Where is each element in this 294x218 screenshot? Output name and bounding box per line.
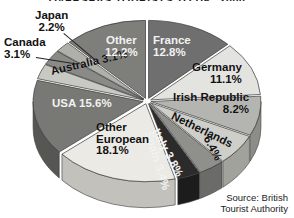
label-canada: Canada 3.1% [4, 37, 46, 60]
source-attribution: Source: British Tourist Authority [220, 192, 288, 215]
label-france-name: France [153, 34, 191, 46]
source-line-2: Tourist Authority [220, 203, 288, 215]
label-canada-value: 3.1% [4, 48, 30, 60]
label-other-european-l1: Other [96, 121, 127, 133]
label-other-european: Other European 18.1% [96, 122, 149, 157]
label-irish-republic-name: Irish Republic [173, 91, 249, 103]
label-irish-republic-value: 8.2% [223, 103, 249, 115]
label-germany-name: Germany [192, 61, 242, 73]
label-other-european-value: 18.1% [96, 144, 129, 156]
label-france: France 12.8% [153, 35, 191, 58]
label-canada-name: Canada [4, 36, 46, 48]
label-japan-name: Japan [35, 9, 68, 21]
label-usa: USA 15.6% [52, 98, 112, 110]
pie-chart-figure: OVERSEAS TOURISTS TO UK: 2000 Japan 2.2%… [0, 0, 294, 218]
label-germany-value: 11.1% [210, 73, 242, 85]
label-france-value: 12.8% [153, 46, 186, 58]
source-line-1: Source: British [220, 192, 288, 204]
label-other: Other 12.2% [105, 35, 138, 58]
label-japan: Japan 2.2% [35, 10, 68, 33]
label-other-value: 12.2% [105, 46, 138, 58]
label-irish-republic: Irish Republic 8.2% [173, 92, 249, 115]
label-other-name: Other [106, 34, 137, 46]
label-germany: Germany 11.1% [192, 62, 242, 85]
label-other-european-l2: European [96, 133, 149, 145]
label-japan-value: 2.2% [39, 21, 65, 33]
